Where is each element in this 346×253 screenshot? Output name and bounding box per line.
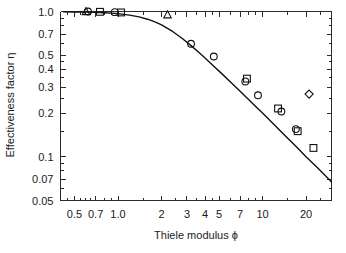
y-tick-label: 1.0 bbox=[38, 6, 53, 18]
y-tick-label: 0.1 bbox=[38, 151, 53, 163]
chart-figure: 0.50.71.0234571020 1.00.70.50.40.30.20.1… bbox=[0, 0, 346, 253]
x-tick-label: 1.0 bbox=[110, 208, 125, 220]
x-axis-title: Thiele modulus ϕ bbox=[154, 229, 238, 241]
y-tick-label: 0.4 bbox=[38, 63, 53, 75]
y-tick-label: 0.5 bbox=[38, 49, 53, 61]
x-tick-label: 5 bbox=[216, 208, 222, 220]
y-tick-label: 0.2 bbox=[38, 107, 53, 119]
y-tick-label: 0.7 bbox=[38, 28, 53, 40]
x-tick-label: 3 bbox=[184, 208, 190, 220]
y-tick-label: 0.07 bbox=[32, 173, 53, 185]
y-axis-title: Effectiveness factor η bbox=[4, 53, 16, 158]
x-tick-label: 7 bbox=[237, 208, 243, 220]
x-tick-label: 4 bbox=[202, 208, 208, 220]
x-tick-label: 2 bbox=[158, 208, 164, 220]
x-tick-label: 0.7 bbox=[88, 208, 103, 220]
x-tick-label: 10 bbox=[256, 208, 268, 220]
y-tick-label: 0.05 bbox=[32, 195, 53, 207]
x-tick-label: 0.5 bbox=[67, 208, 82, 220]
y-tick-label: 0.3 bbox=[38, 81, 53, 93]
effectiveness-factor-vs-thiele-modulus-chart: 0.50.71.0234571020 1.00.70.50.40.30.20.1… bbox=[0, 0, 346, 253]
x-tick-label: 20 bbox=[300, 208, 312, 220]
